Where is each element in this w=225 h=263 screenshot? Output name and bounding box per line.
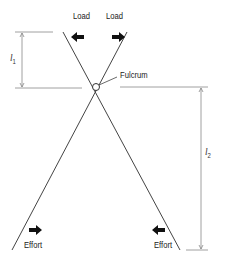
l1-label: l1 xyxy=(10,51,16,65)
arm-right-to-left xyxy=(12,32,127,250)
l1-subscript: 1 xyxy=(13,58,16,65)
effort-left-arrow-icon xyxy=(29,225,42,235)
effort-left-label: Effort xyxy=(24,240,42,250)
load-left-arrow-icon xyxy=(71,32,84,42)
l2-subscript: 2 xyxy=(208,152,211,159)
lever-diagram: Load Load Fulcrum Effort Effort l1 l2 xyxy=(0,0,225,263)
effort-right-arrow-icon xyxy=(152,225,165,235)
fulcrum-pivot xyxy=(93,84,100,91)
load-right-label: Load xyxy=(106,11,123,21)
effort-right-label: Effort xyxy=(154,240,172,250)
l2-label: l2 xyxy=(205,145,211,159)
load-left-label: Load xyxy=(73,11,90,21)
diagram-graphics xyxy=(0,0,225,263)
fulcrum-label: Fulcrum xyxy=(120,70,148,80)
arm-left-to-right xyxy=(63,32,180,250)
